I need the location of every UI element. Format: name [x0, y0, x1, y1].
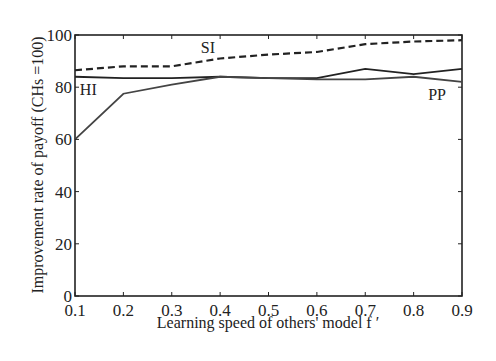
series-label-si: SI — [201, 39, 215, 56]
axis-ticks: 0.10.20.30.40.50.60.70.80.9020406080100 — [47, 26, 473, 320]
y-tick-label: 20 — [55, 235, 72, 254]
y-tick-label: 40 — [55, 183, 72, 202]
x-tick-label: 0.9 — [451, 301, 472, 320]
y-tick-label: 80 — [55, 78, 72, 97]
line-chart: 0.10.20.30.40.50.60.70.80.9020406080100 … — [0, 0, 496, 361]
x-axis-label: Learning speed of others' model f ′ — [157, 314, 379, 332]
series-pp-line — [75, 77, 462, 140]
y-tick-label: 0 — [64, 287, 73, 306]
plot-frame — [75, 35, 462, 296]
series-si-line — [75, 40, 462, 70]
series-label-hi: HI — [80, 81, 97, 98]
y-tick-label: 60 — [55, 130, 72, 149]
y-axis-label: Improvement rate of payoff (CHs =100) — [29, 36, 47, 293]
y-tick-label: 100 — [47, 26, 73, 45]
plot-border — [75, 35, 462, 296]
x-tick-label: 0.2 — [113, 301, 134, 320]
series-lines — [75, 40, 462, 139]
series-label-pp: PP — [428, 86, 446, 103]
x-tick-label: 0.8 — [403, 301, 424, 320]
